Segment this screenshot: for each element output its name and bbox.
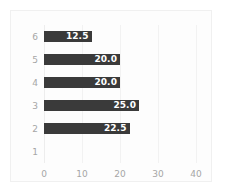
- x-axis-tick-0: 0: [41, 169, 47, 179]
- x-axis-tick-30: 30: [152, 169, 163, 179]
- y-axis-tick-4: 4: [32, 75, 38, 91]
- x-axis-tick-20: 20: [114, 169, 125, 179]
- y-axis-tick-3: 3: [32, 98, 38, 114]
- y-axis-tick-2: 2: [32, 121, 38, 137]
- x-axis-tick-10: 10: [76, 169, 87, 179]
- plot-panel: 12.520.020.025.022.5 654321 010203040: [10, 10, 212, 182]
- y-axis-tick-layer: 654321: [44, 25, 215, 163]
- y-axis-tick-6: 6: [32, 29, 38, 45]
- y-axis-tick-1: 1: [32, 144, 38, 160]
- y-axis-tick-5: 5: [32, 52, 38, 68]
- plot-area: 12.520.020.025.022.5 654321 010203040: [44, 25, 215, 163]
- x-axis-tick-40: 40: [190, 169, 201, 179]
- bar-chart-figure: 12.520.020.025.022.5 654321 010203040: [0, 0, 226, 192]
